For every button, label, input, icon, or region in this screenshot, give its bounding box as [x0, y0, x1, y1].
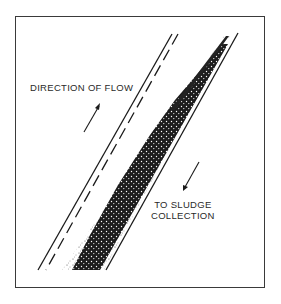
- direction-of-flow-label: DIRECTION OF FLOW: [30, 82, 133, 93]
- collection-line: COLLECTION: [151, 210, 215, 221]
- to-sludge-collection-label: TO SLUDGE COLLECTION: [151, 199, 215, 221]
- settling-channel-diagram: [0, 0, 281, 304]
- sludge-thin-trail: [170, 36, 229, 110]
- flow-direction-arrow-icon: [84, 103, 100, 132]
- sludge-dense-band: [72, 44, 228, 270]
- sludge-direction-arrow-icon: [183, 162, 199, 191]
- right-wall-line: [106, 33, 238, 270]
- to-sludge-line: TO SLUDGE: [151, 199, 215, 210]
